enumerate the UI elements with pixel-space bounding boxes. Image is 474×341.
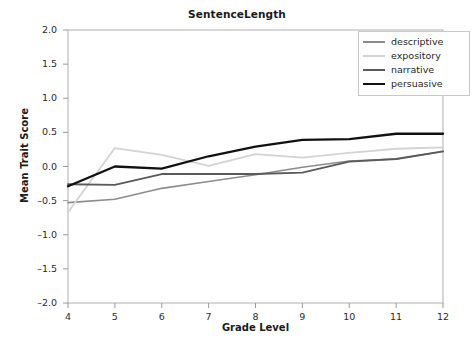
- legend-swatch-icon: [363, 55, 385, 57]
- legend-label: expository: [391, 49, 441, 63]
- x-tick-label: 5: [102, 311, 128, 322]
- legend-label: persuasive: [391, 77, 443, 91]
- x-tick-label: 4: [55, 311, 81, 322]
- y-tick-label: –1.0: [23, 229, 57, 240]
- y-tick-label: 0.5: [23, 126, 57, 137]
- legend-swatch-icon: [363, 83, 385, 85]
- y-tick-label: 2.0: [23, 24, 57, 35]
- legend-swatch-icon: [363, 41, 385, 43]
- x-tick-label: 11: [383, 311, 409, 322]
- x-tick-label: 12: [430, 311, 456, 322]
- y-tick-label: –1.5: [23, 263, 57, 274]
- legend-label: descriptive: [391, 35, 443, 49]
- chart-container: SentenceLength Mean Trait Score Grade Le…: [0, 0, 474, 341]
- legend-item-persuasive[interactable]: persuasive: [363, 77, 467, 91]
- legend-item-expository[interactable]: expository: [363, 49, 467, 63]
- x-tick-label: 9: [289, 311, 315, 322]
- x-tick-label: 6: [149, 311, 175, 322]
- legend: descriptive expository narrative persuas…: [358, 31, 470, 96]
- legend-item-descriptive[interactable]: descriptive: [363, 35, 467, 49]
- x-tick-label: 8: [243, 311, 269, 322]
- legend-swatch-icon: [363, 69, 385, 71]
- y-tick-label: 1.5: [23, 58, 57, 69]
- series-lines: [68, 134, 443, 212]
- y-tick-label: –2.0: [23, 297, 57, 308]
- y-tick-label: –0.5: [23, 195, 57, 206]
- y-tick-label: 1.0: [23, 92, 57, 103]
- x-tick-label: 7: [196, 311, 222, 322]
- legend-label: narrative: [391, 63, 434, 77]
- legend-item-narrative[interactable]: narrative: [363, 63, 467, 77]
- x-tick-label: 10: [336, 311, 362, 322]
- y-tick-label: 0.0: [23, 161, 57, 172]
